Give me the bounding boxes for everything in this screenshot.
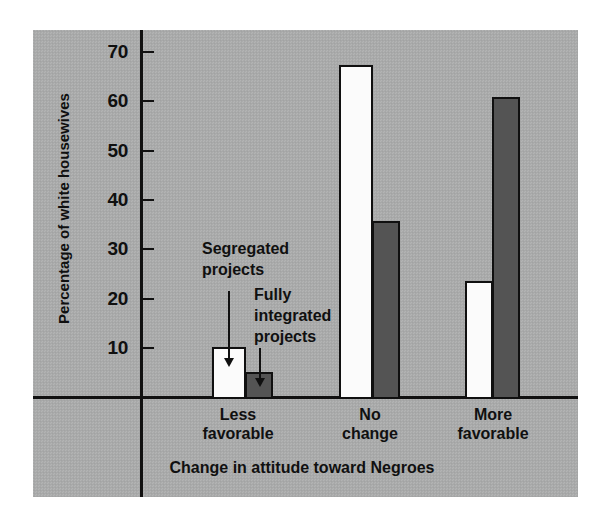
y-tick-70 <box>143 51 154 53</box>
annotation-line-2: integrated <box>254 306 364 327</box>
y-axis-title: Percentage of white housewives <box>55 84 72 334</box>
annotation-line-3: projects <box>254 327 364 348</box>
bar-segregated-more-favorable <box>465 281 493 399</box>
x-group-label-no-change: No change <box>315 406 425 444</box>
chart-figure: 70 60 50 40 30 20 10 Percentage of white… <box>0 0 604 525</box>
y-tick-50 <box>143 150 154 152</box>
x-group-label-line-2: favorable <box>438 425 548 444</box>
annotation-leader-integrated <box>259 348 261 381</box>
annotation-leader-segregated <box>228 291 230 360</box>
arrow-head-segregated-icon <box>224 358 234 367</box>
y-tick-label-10: 10 <box>88 338 128 357</box>
bar-segregated-no-change <box>339 65 373 399</box>
x-group-label-line-2: change <box>315 425 425 444</box>
y-tick-20 <box>143 298 154 300</box>
annotation-line-1: Segregated <box>202 239 332 260</box>
y-tick-30 <box>143 248 154 250</box>
arrow-head-integrated-icon <box>255 378 265 387</box>
annotation-fully-integrated-projects: Fully integrated projects <box>254 285 364 347</box>
bar-integrated-no-change <box>372 221 400 399</box>
annotation-line-1: Fully <box>254 285 364 306</box>
annotation-segregated-projects: Segregated projects <box>202 239 332 281</box>
x-axis-title: Change in attitude toward Negroes <box>0 459 604 477</box>
x-group-label-line-2: favorable <box>183 425 293 444</box>
y-tick-label-70: 70 <box>88 42 128 61</box>
bar-integrated-more-favorable <box>492 97 520 399</box>
x-group-label-line-1: No <box>315 406 425 425</box>
y-tick-label-50: 50 <box>88 141 128 160</box>
y-tick-10 <box>143 347 154 349</box>
y-tick-40 <box>143 199 154 201</box>
x-group-label-more-favorable: More favorable <box>438 406 548 444</box>
y-tick-label-30: 30 <box>88 239 128 258</box>
x-group-label-line-1: More <box>438 406 548 425</box>
annotation-line-2: projects <box>202 260 332 281</box>
y-tick-label-60: 60 <box>88 91 128 110</box>
y-tick-label-40: 40 <box>88 190 128 209</box>
y-tick-60 <box>143 100 154 102</box>
x-group-label-line-1: Less <box>183 406 293 425</box>
x-group-label-less-favorable: Less favorable <box>183 406 293 444</box>
y-tick-label-20: 20 <box>88 289 128 308</box>
